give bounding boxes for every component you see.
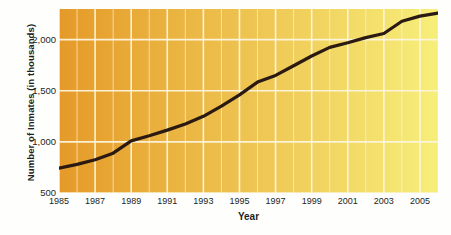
x-tick-label: 1993 <box>183 195 223 207</box>
data-line-series <box>59 9 438 193</box>
x-tick-label: 2003 <box>364 195 404 207</box>
x-axis-tick-labels: 1985198719891991199319951997199920012003… <box>0 195 451 209</box>
plot-area <box>59 9 438 193</box>
y-tick-label: 2,000 <box>12 35 56 45</box>
x-axis-title: Year <box>59 211 438 222</box>
x-tick-label: 2005 <box>400 195 440 207</box>
x-tick-label: 2001 <box>328 195 368 207</box>
x-tick-label: 1985 <box>39 195 79 207</box>
x-tick-label: 1991 <box>147 195 187 207</box>
y-tick-label: 1,500 <box>12 86 56 96</box>
y-tick-label: 1,000 <box>12 137 56 147</box>
x-tick-label: 1989 <box>111 195 151 207</box>
line-chart: Number of Inmates (in thousands) 5001,00… <box>0 0 451 235</box>
x-tick-label: 1997 <box>256 195 296 207</box>
x-tick-label: 1987 <box>75 195 115 207</box>
x-tick-label: 1999 <box>292 195 332 207</box>
x-tick-label: 1995 <box>219 195 259 207</box>
